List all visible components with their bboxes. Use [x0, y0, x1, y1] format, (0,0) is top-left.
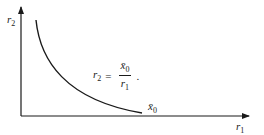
formula-den-sub: 1	[125, 83, 129, 92]
y-axis-label: r2	[7, 14, 15, 28]
formula-fraction: x̄0 r1	[119, 60, 132, 92]
x-axis-label: r1	[236, 121, 244, 135]
formula-num-sub: 0	[125, 65, 129, 74]
formula-lhs-sub: 2	[97, 74, 101, 83]
formula-numerator: x̄0	[119, 60, 132, 76]
formula-lhs: r2	[93, 69, 101, 83]
x-axis-label-sub: 1	[240, 126, 244, 135]
formula-trailing-period: .	[136, 71, 139, 82]
curve-label: x̄0	[148, 101, 157, 115]
formula-denominator: r1	[119, 76, 131, 92]
y-axis-label-sub: 2	[11, 19, 15, 28]
curve-label-sub: 0	[153, 106, 157, 115]
formula-equals: =	[105, 71, 111, 82]
formula: r2 = x̄0 r1 .	[93, 60, 139, 92]
